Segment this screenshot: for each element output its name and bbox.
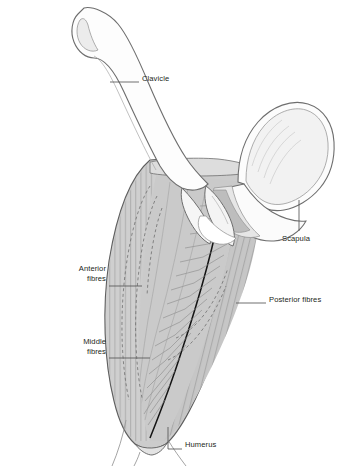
label-scapula: Scapula: [282, 234, 310, 244]
label-humerus: Humerus: [185, 440, 216, 450]
label-middle-fibres-line1: Middle: [44, 337, 106, 347]
label-clavicle: Clavicle: [142, 74, 169, 84]
label-anterior-fibres-line2: fibres: [44, 274, 106, 284]
label-posterior-fibres: Posterior fibres: [269, 295, 321, 305]
label-middle-fibres: Middle fibres: [44, 337, 106, 356]
figure-page: 2: [0, 0, 343, 466]
label-middle-fibres-line2: fibres: [44, 347, 106, 357]
label-anterior-fibres-line1: Anterior: [44, 264, 106, 274]
label-anterior-fibres: Anterior fibres: [44, 264, 106, 283]
deltoid-anatomy-illustration: [0, 0, 343, 466]
